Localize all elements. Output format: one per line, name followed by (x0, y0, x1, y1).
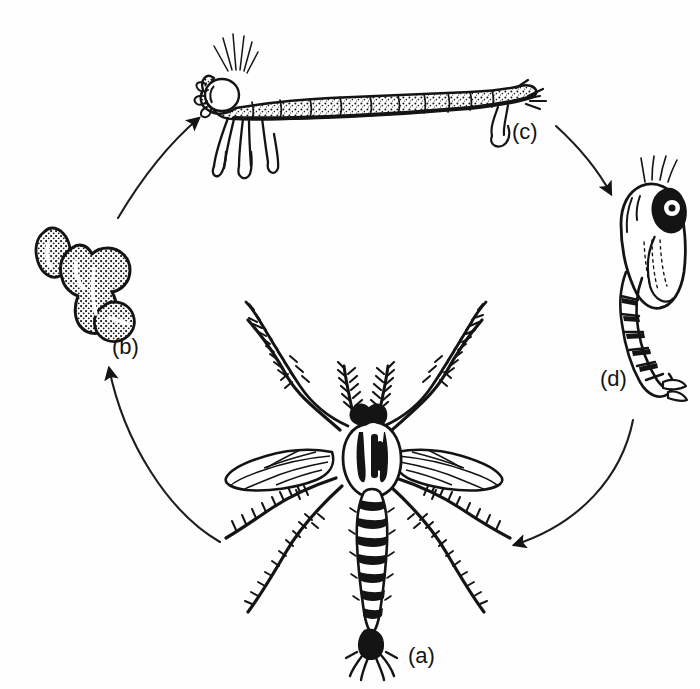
arrow-adult-to-eggs (109, 368, 220, 542)
mosquito-life-cycle-figure: (c) (d) (b) (a) (0, 0, 700, 689)
larva-drawing (195, 34, 546, 178)
arrow-larva-to-pupa (556, 126, 611, 194)
stage-label-eggs: (b) (112, 336, 139, 358)
stage-label-larva: (c) (512, 121, 538, 143)
life-cycle-illustration (0, 0, 700, 689)
pupa-drawing (620, 156, 687, 401)
egg-cluster-drawing (36, 228, 134, 342)
arrow-pupa-to-adult (514, 420, 633, 545)
stage-label-adult: (a) (408, 645, 435, 667)
arrow-eggs-to-larva (118, 118, 199, 218)
adult-mosquito-drawing (226, 302, 510, 680)
stage-label-pupa: (d) (600, 368, 627, 390)
